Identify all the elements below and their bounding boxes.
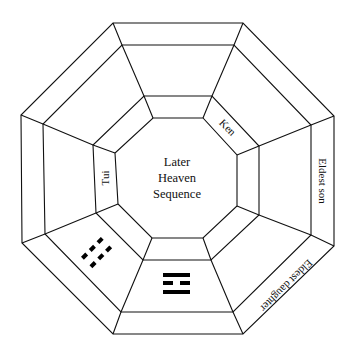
label-eldest-son: Eldest son (317, 158, 329, 204)
title-line-3: Sequence (153, 187, 201, 201)
title-line-1: Later (164, 155, 191, 169)
label-eldest-daughter: Eldest daughter (258, 257, 315, 314)
later-heaven-bagua-diagram: Later Heaven Sequence Tui Ken Eldest son… (0, 0, 354, 354)
kun-trigram-icon (81, 237, 112, 268)
title-line-2: Heaven (158, 171, 197, 185)
label-tui: Tui (99, 171, 111, 186)
label-ken: Ken (217, 116, 239, 138)
center-title: Later Heaven Sequence (153, 155, 201, 201)
li-trigram-icon (163, 273, 190, 294)
